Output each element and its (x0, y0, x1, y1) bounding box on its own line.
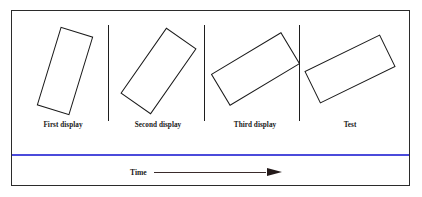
rotated-rectangle-stimulus (210, 32, 299, 106)
rotated-rectangle-stimulus (304, 34, 395, 103)
stimulus-shape-container (13, 23, 113, 119)
time-arrow-line (154, 172, 266, 173)
rotated-rectangle-stimulus (120, 28, 196, 115)
time-arrow-head (267, 168, 282, 176)
rotated-rectangle-stimulus (37, 27, 93, 115)
stimulus-panel: Second display (108, 11, 208, 133)
stimulus-panel: Test (300, 11, 400, 133)
stimulus-shape-container (108, 23, 208, 119)
time-arrow-icon (154, 168, 282, 177)
panel-label: Third display (205, 121, 305, 129)
experiment-timeline-figure: First displaySecond displayThird display… (0, 0, 422, 197)
time-axis: Time (130, 164, 282, 180)
stimulus-shape-container (205, 23, 305, 119)
panel-label: Test (300, 121, 400, 129)
panel-divider-line (299, 25, 300, 121)
stimulus-panel: First display (13, 11, 113, 133)
stimulus-panel: Third display (205, 11, 305, 133)
panel-label: First display (13, 121, 113, 129)
panel-divider-line (108, 25, 109, 121)
time-axis-label: Time (130, 168, 147, 177)
blue-horizontal-rule (12, 154, 409, 156)
panel-label: Second display (108, 121, 208, 129)
panel-divider-line (204, 25, 205, 121)
stimulus-shape-container (300, 23, 400, 119)
